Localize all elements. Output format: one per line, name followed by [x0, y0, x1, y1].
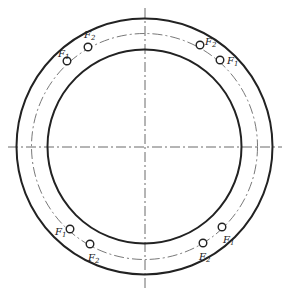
- bolt-hole-bl-1: [66, 225, 74, 233]
- force-label-tl-2: F2: [83, 29, 96, 42]
- force-label-bl-1: F1: [54, 226, 66, 239]
- inner-circle: [48, 50, 242, 244]
- bolt-hole-tl-2: [84, 43, 92, 51]
- flange-diagram: F1F2F2F1F1F2F1F2: [0, 0, 288, 293]
- force-label-br-1: F1: [222, 234, 234, 247]
- bolt-hole-br-2: [199, 239, 207, 247]
- bolt-hole-br-1: [218, 223, 226, 231]
- bolt-hole-bl-2: [86, 240, 94, 248]
- bolt-hole-tr-2: [196, 41, 204, 49]
- bolt-hole-tr-1: [216, 56, 224, 64]
- force-label-tr-2: F2: [204, 36, 217, 49]
